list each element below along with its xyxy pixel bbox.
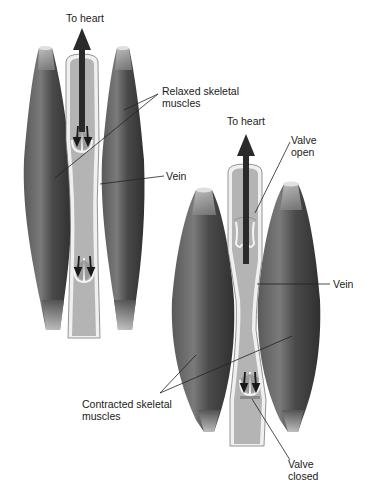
contracted-panel: [160, 134, 330, 460]
right-relaxed-muscle: [102, 46, 145, 330]
relaxed-vein-label: Vein: [166, 170, 186, 182]
valve-open-label-line1: Valve: [291, 134, 317, 146]
contracted-muscles-label: Contracted skeletal muscles: [82, 398, 172, 422]
left-relaxed-muscle: [24, 46, 72, 330]
right-contracted-muscle: [258, 182, 321, 433]
valve-open-label: Valve open: [291, 134, 317, 158]
contracted-muscles-label-line2: muscles: [82, 410, 172, 422]
relaxed-muscles-label: Relaxed skeletal muscles: [162, 85, 239, 109]
valve-open-label-line2: open: [291, 146, 317, 158]
left-contracted-muscle: [172, 188, 235, 433]
relaxed-panel: [24, 28, 164, 338]
valve-closed-label-line2: closed: [288, 470, 318, 482]
valve-closed-label-line1: Valve: [288, 458, 318, 470]
relaxed-muscles-label-line2: muscles: [162, 97, 239, 109]
contracted-to-heart-label: To heart: [227, 115, 265, 127]
relaxed-muscles-label-line1: Relaxed skeletal: [162, 85, 239, 97]
contracted-vein-label: Vein: [333, 278, 353, 290]
valve-closed-label: Valve closed: [288, 458, 318, 482]
relaxed-to-heart-label: To heart: [66, 12, 104, 24]
contracted-muscles-label-line1: Contracted skeletal: [82, 398, 172, 410]
muscle-pump-diagram: [0, 0, 376, 485]
